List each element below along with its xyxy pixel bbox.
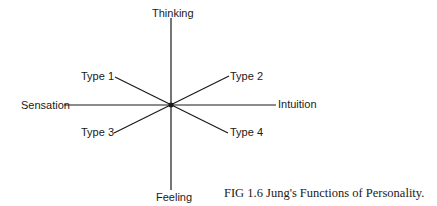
label-type-2: Type 2 (230, 70, 263, 82)
label-type-1: Type 1 (81, 70, 114, 82)
label-type-4: Type 4 (230, 126, 263, 138)
label-type-3: Type 3 (81, 126, 114, 138)
center-point (169, 103, 174, 108)
label-feeling: Feeling (156, 191, 192, 203)
label-sensation: Sensation (21, 99, 70, 111)
label-intuition: Intuition (278, 98, 317, 110)
label-thinking: Thinking (152, 7, 194, 19)
figure-caption: FIG 1.6 Jung's Functions of Personality. (224, 186, 424, 201)
